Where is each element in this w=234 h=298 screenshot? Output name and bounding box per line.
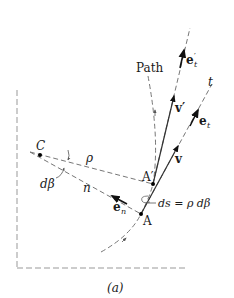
svg-text:e: e (113, 200, 121, 214)
svg-text:t: t (207, 121, 211, 130)
label-n: n (83, 181, 91, 195)
e-t-prime-vector (180, 50, 184, 68)
label-rho: ρ (85, 151, 93, 165)
label-v-prime: v′ (174, 101, 185, 115)
label-t: t (208, 75, 213, 89)
figure-caption: (a) (107, 281, 124, 295)
svg-text:n: n (121, 207, 126, 216)
label-A-prime: A′ (141, 170, 154, 184)
svg-text:′: ′ (194, 51, 196, 60)
v-prime-vector (153, 96, 174, 184)
svg-text:e: e (186, 53, 194, 67)
label-e-t: e t (199, 114, 211, 130)
curvilinear-motion-diagram: Path C ρ dβ n t A′ A v v′ ds = ρ dβ e n … (0, 0, 234, 298)
label-dbeta: dβ (40, 177, 55, 191)
label-C: C (36, 139, 45, 153)
e-t-vector (190, 110, 198, 126)
label-A: A (142, 214, 152, 228)
label-v: v (174, 152, 183, 166)
point-C (38, 153, 42, 157)
label-e-t-prime: e t ′ (186, 51, 198, 69)
svg-text:e: e (199, 114, 207, 128)
label-ds-eq: ds = ρ dβ (158, 197, 210, 210)
svg-text:t: t (194, 60, 198, 69)
dbeta-angle-marks (56, 150, 69, 178)
label-path: Path (136, 61, 164, 75)
